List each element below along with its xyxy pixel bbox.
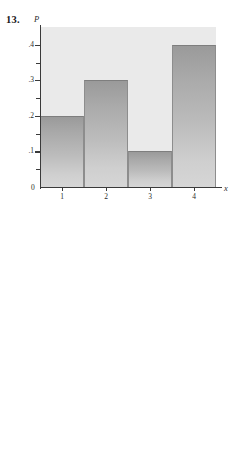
y-axis-title-13: P: [34, 15, 39, 24]
x-tick-label-2: 2: [96, 193, 116, 201]
y-minor-tick: [36, 169, 41, 170]
x-tick-1: [62, 187, 63, 191]
y-tick-.2: [35, 116, 41, 117]
y-tick-.4: [35, 45, 41, 46]
figure-14: 14. P x 0 .3.2.1 246810: [0, 228, 234, 456]
y-minor-tick: [36, 134, 41, 135]
y-axis-line-13: [40, 25, 41, 189]
x-tick-4: [194, 187, 195, 191]
bar-3: [128, 151, 172, 187]
bar-2: [84, 80, 128, 187]
y-tick-label-.1: .1: [20, 147, 34, 155]
x-tick-2: [106, 187, 107, 191]
y-tick-.3: [35, 80, 41, 81]
bar-series-13: [40, 27, 216, 187]
y-tick-label-.3: .3: [20, 76, 34, 84]
y-tick-label-.2: .2: [20, 112, 34, 120]
plot-area-13: [40, 27, 216, 187]
bar-1: [40, 116, 84, 187]
figure-13: 13. P x 0 .4.3.2.1 1234: [0, 0, 234, 228]
y-minor-tick: [36, 63, 41, 64]
x-tick-label-3: 3: [140, 193, 160, 201]
x-tick-label-1: 1: [52, 193, 72, 201]
y-tick-.1: [35, 151, 41, 152]
bar-4: [172, 45, 216, 187]
x-axis-title-13: x: [224, 184, 228, 193]
y-tick-label-.4: .4: [20, 41, 34, 49]
y-axis-zero-label-13: 0: [31, 184, 35, 192]
x-tick-label-4: 4: [184, 193, 204, 201]
x-tick-3: [150, 187, 151, 191]
y-minor-tick: [36, 98, 41, 99]
problem-number-13: 13.: [6, 14, 20, 25]
